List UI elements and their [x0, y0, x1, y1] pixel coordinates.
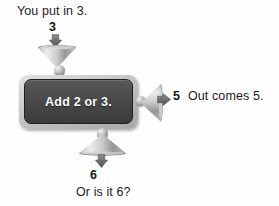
input-value-label: 3	[49, 20, 56, 34]
machine-box[interactable]: Add 2 or 3.	[19, 75, 138, 129]
output-bottom-value-label: 6	[90, 168, 97, 182]
output-arrow-right-icon	[157, 92, 172, 111]
machine-label: Add 2 or 3.	[25, 95, 132, 109]
output-right-value-label: 5	[173, 89, 180, 103]
diagram-canvas: You put in 3. 3	[0, 0, 279, 206]
output-right-caption: Out comes 5.	[188, 89, 264, 103]
input-caption: You put in 3.	[17, 4, 87, 18]
output-bottom-caption: Or is it 6?	[76, 185, 131, 199]
machine-box-body: Add 2 or 3.	[24, 79, 133, 124]
